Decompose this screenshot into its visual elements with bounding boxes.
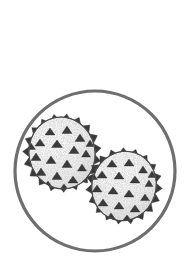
pollen-figure	[0, 0, 190, 280]
illustration-canvas: Two spiny (echinate) pollen grains drawn…	[0, 0, 190, 280]
